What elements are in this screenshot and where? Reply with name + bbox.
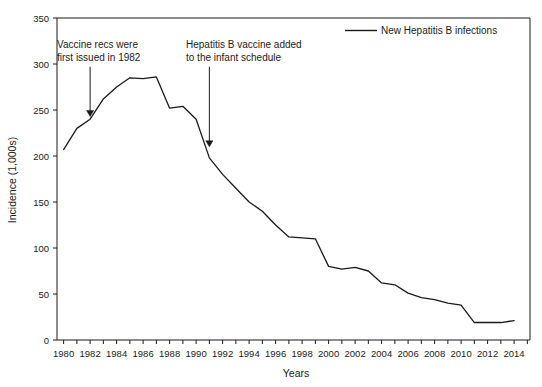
x-tick-label: 1990 bbox=[186, 348, 207, 359]
x-tick-label: 1982 bbox=[80, 348, 101, 359]
x-tick-label: 1988 bbox=[159, 348, 180, 359]
legend: New Hepatitis B infections bbox=[345, 25, 497, 36]
x-tick-label: 1980 bbox=[53, 348, 74, 359]
y-tick-label: 150 bbox=[33, 197, 49, 208]
x-tick-label: 1994 bbox=[239, 348, 260, 359]
x-axis-title: Years bbox=[283, 367, 309, 379]
annotation-text-vaccine-recs-line1: Vaccine recs were bbox=[57, 39, 138, 50]
series-line-0 bbox=[64, 77, 514, 323]
y-tick-label: 0 bbox=[44, 335, 49, 346]
x-tick-label: 2014 bbox=[504, 348, 525, 359]
x-tick-label: 1998 bbox=[292, 348, 313, 359]
y-tick-label: 250 bbox=[33, 105, 49, 116]
x-tick-label: 2010 bbox=[451, 348, 472, 359]
annotation-text-infant-schedule-line2: to the infant schedule bbox=[186, 52, 282, 63]
annotation-arrow-head-infant-schedule bbox=[206, 141, 213, 147]
annotation-text-vaccine-recs-line2: first issued in 1982 bbox=[57, 52, 141, 63]
x-axis-minor-ticks bbox=[64, 340, 528, 344]
plot-frame bbox=[57, 18, 530, 340]
x-tick-label: 2004 bbox=[371, 348, 392, 359]
y-tick-label: 200 bbox=[33, 151, 49, 162]
data-series-group bbox=[64, 77, 514, 323]
x-axis-ticks: 1980198219841986198819901992199419961998… bbox=[53, 348, 525, 359]
x-tick-label: 1984 bbox=[106, 348, 127, 359]
legend-label: New Hepatitis B infections bbox=[381, 25, 497, 36]
hepatitis-b-incidence-line-chart: 050100150200250300350 198019821984198619… bbox=[0, 0, 542, 387]
annotations-group: Vaccine recs werefirst issued in 1982Hep… bbox=[57, 39, 302, 147]
chart-container: 050100150200250300350 198019821984198619… bbox=[0, 0, 542, 387]
y-tick-label: 350 bbox=[33, 13, 49, 24]
x-tick-label: 2006 bbox=[398, 348, 419, 359]
y-tick-label: 100 bbox=[33, 243, 49, 254]
x-tick-label: 2012 bbox=[477, 348, 498, 359]
x-tick-label: 2008 bbox=[424, 348, 445, 359]
y-axis-ticks: 050100150200250300350 bbox=[33, 13, 57, 346]
y-tick-label: 300 bbox=[33, 59, 49, 70]
y-axis-title: Incidence (1,000s) bbox=[6, 137, 18, 223]
x-tick-label: 2002 bbox=[345, 348, 366, 359]
x-tick-label: 1996 bbox=[265, 348, 286, 359]
annotation-text-infant-schedule-line1: Hepatitis B vaccine added bbox=[186, 39, 302, 50]
y-tick-label: 50 bbox=[38, 289, 49, 300]
x-tick-label: 1992 bbox=[212, 348, 233, 359]
x-tick-label: 1986 bbox=[133, 348, 154, 359]
x-tick-label: 2000 bbox=[318, 348, 339, 359]
